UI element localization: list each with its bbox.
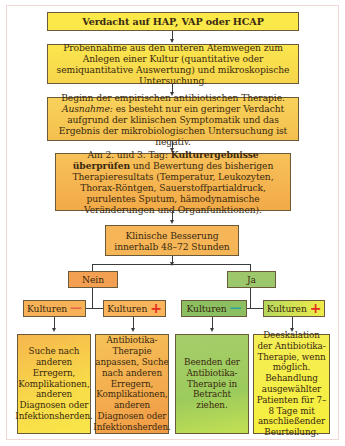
- therapy-node: Beginn der empirischen antibiotischen Th…: [47, 97, 299, 141]
- connector: [250, 288, 251, 308]
- outcome-4-text: Deeskalation der Antibiotika-Therapie, w…: [256, 330, 327, 438]
- no-text: Nein: [82, 274, 104, 285]
- therapy-exception-label: Ausnahme:: [62, 103, 113, 114]
- outcome-deescalation-node: Deeskalation der Antibiotika-Therapie, w…: [253, 334, 330, 434]
- outcome-search-node: Suche nach anderen Erregern, Komplikatio…: [17, 334, 91, 434]
- arrow-icon: [52, 328, 56, 332]
- yes-culture-positive-label: Kulturen: [267, 303, 307, 314]
- yes-text: Ja: [247, 274, 256, 285]
- outcome-1-text: Suche nach anderen Erregern, Komplikatio…: [15, 346, 92, 422]
- connector: [292, 317, 293, 328]
- connector: [92, 288, 93, 308]
- therapy-text: Beginn der empirischen antibiotischen Th…: [54, 92, 292, 147]
- improvement-node: Klinische Besserung innerhalb 48–72 Stun…: [105, 225, 239, 256]
- outcome-2-text: Antibiotika-Therapie anpassen, Suche nac…: [93, 335, 170, 432]
- minus-icon: —: [230, 303, 242, 314]
- improvement-text: Klinische Besserung innerhalb 48–72 Stun…: [114, 230, 229, 252]
- connector: [247, 308, 263, 309]
- sampling-text: Probennahme aus den unteren Atemwegen zu…: [49, 42, 297, 86]
- outcome-3-text: Beenden der Antibiotika-Therapie in Betr…: [177, 357, 247, 411]
- arrow-icon: [170, 220, 174, 224]
- arrow-icon: [131, 328, 135, 332]
- yes-culture-negative-label: Kulturen: [187, 303, 227, 314]
- connector: [250, 264, 251, 271]
- connector: [133, 317, 134, 328]
- branch-line: [92, 264, 251, 265]
- connector: [54, 317, 55, 328]
- no-culture-negative-label: Kulturen: [27, 303, 67, 314]
- start-text: Verdacht auf HAP, VAP oder HCAP: [82, 16, 264, 27]
- outcome-adjust-therapy-node: Antibiotika-Therapie anpassen, Suche nac…: [95, 334, 169, 434]
- no-culture-positive-node: Kulturen+: [103, 300, 166, 317]
- outcome-stop-therapy-node: Beenden der Antibiotika-Therapie in Betr…: [175, 334, 249, 434]
- improvement-line2: innerhalb 48–72 Stunden: [114, 241, 229, 252]
- no-culture-positive-label: Kulturen: [107, 303, 147, 314]
- improvement-line1: Klinische Besserung: [125, 230, 218, 241]
- connector: [92, 264, 93, 271]
- start-node: Verdacht auf HAP, VAP oder HCAP: [47, 12, 299, 31]
- review-node: Am 2. und 3. Tag: Kulturergebnisse überp…: [55, 153, 291, 211]
- arrow-icon: [210, 328, 214, 332]
- yes-culture-positive-node: Kulturen+: [263, 300, 325, 317]
- plus-icon: +: [150, 303, 162, 314]
- minus-icon: —: [70, 303, 82, 314]
- connector: [212, 317, 213, 328]
- review-text: Am 2. und 3. Tag: Kulturergebnisse überp…: [59, 149, 287, 215]
- no-culture-negative-node: Kulturen—: [23, 300, 86, 317]
- plus-icon: +: [310, 303, 322, 314]
- yes-culture-negative-node: Kulturen—: [181, 300, 247, 317]
- sampling-node: Probennahme aus den unteren Atemwegen zu…: [47, 44, 299, 84]
- connector: [86, 308, 103, 309]
- therapy-line1: Beginn der empirischen antibiotischen Th…: [61, 92, 285, 103]
- yes-node: Ja: [227, 271, 276, 288]
- no-node: Nein: [68, 271, 118, 288]
- review-prefix: Am 2. und 3. Tag:: [87, 149, 170, 160]
